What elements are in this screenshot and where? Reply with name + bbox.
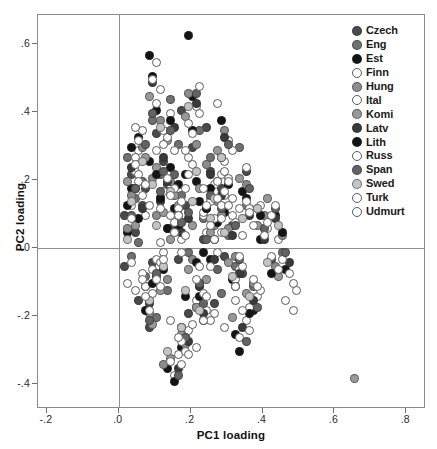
legend-marker-icon xyxy=(352,109,362,119)
data-point xyxy=(177,360,186,369)
data-point xyxy=(156,123,165,132)
data-point xyxy=(156,187,165,196)
data-point xyxy=(181,184,190,193)
data-point xyxy=(220,167,229,176)
data-point xyxy=(217,116,226,125)
data-point xyxy=(281,248,290,257)
legend-item-span[interactable]: Span xyxy=(352,163,436,177)
legend-label: Czech xyxy=(366,25,398,36)
legend-label: Span xyxy=(366,164,393,175)
legend-item-ital[interactable]: Ital xyxy=(352,93,436,107)
data-point xyxy=(210,299,219,308)
data-point xyxy=(170,146,179,155)
data-point xyxy=(145,316,154,325)
scatter-plot-figure: -.2.0.2.4.6.8 .6.4.2.0-.2-.4 PC1 loading… xyxy=(0,0,437,449)
y-tick-label: -.4 xyxy=(4,377,30,389)
legend-marker-icon xyxy=(352,179,362,189)
data-point xyxy=(188,129,197,138)
y-tick xyxy=(32,179,37,180)
data-point xyxy=(271,201,280,210)
legend: CzechEngEstFinnHungItalKomiLatvLithRussS… xyxy=(352,24,436,218)
legend-label: Komi xyxy=(366,109,393,120)
legend-item-est[interactable]: Est xyxy=(352,52,436,66)
data-point xyxy=(220,323,229,332)
data-point xyxy=(292,286,301,295)
data-point xyxy=(166,191,175,200)
y-tick xyxy=(32,111,37,112)
data-point xyxy=(213,194,222,203)
legend-label: Udmurt xyxy=(366,206,405,217)
data-point xyxy=(195,82,204,91)
data-point xyxy=(217,153,226,162)
data-point xyxy=(152,221,161,230)
data-point xyxy=(192,343,201,352)
legend-item-swed[interactable]: Swed xyxy=(352,177,436,191)
y-tick-label: .4 xyxy=(4,105,30,117)
data-point xyxy=(231,296,240,305)
data-point xyxy=(263,194,272,203)
data-point xyxy=(210,309,219,318)
y-axis-label: PC2 loading xyxy=(14,167,26,267)
data-point xyxy=(166,316,175,325)
x-tick-label: .6 xyxy=(329,413,338,425)
data-point xyxy=(123,279,132,288)
data-point xyxy=(184,350,193,359)
data-point xyxy=(228,272,237,281)
x-tick-label: .2 xyxy=(185,413,194,425)
legend-item-lith[interactable]: Lith xyxy=(352,135,436,149)
data-point xyxy=(235,174,244,183)
data-point xyxy=(224,201,233,210)
legend-item-udmurt[interactable]: Udmurt xyxy=(352,205,436,219)
data-point xyxy=(238,231,247,240)
x-tick-label: .0 xyxy=(113,413,122,425)
y-tick-label: -.2 xyxy=(4,309,30,321)
data-point xyxy=(242,337,251,346)
data-point xyxy=(231,282,240,291)
data-point xyxy=(163,174,172,183)
data-point xyxy=(145,306,154,315)
legend-item-turk[interactable]: Turk xyxy=(352,191,436,205)
legend-marker-icon xyxy=(352,165,362,175)
data-point xyxy=(213,99,222,108)
data-point xyxy=(224,177,233,186)
legend-marker-icon xyxy=(352,82,362,92)
legend-item-russ[interactable]: Russ xyxy=(352,149,436,163)
legend-label: Finn xyxy=(366,67,389,78)
legend-item-finn[interactable]: Finn xyxy=(352,66,436,80)
legend-item-czech[interactable]: Czech xyxy=(352,24,436,38)
data-point xyxy=(195,109,204,118)
legend-item-eng[interactable]: Eng xyxy=(352,38,436,52)
x-axis-label: PC1 loading xyxy=(37,429,425,441)
legend-marker-icon xyxy=(352,40,362,50)
x-tick-label: -.2 xyxy=(40,413,53,425)
data-point xyxy=(134,238,143,247)
legend-label: Swed xyxy=(366,178,394,189)
data-point xyxy=(184,31,193,40)
legend-item-komi[interactable]: Komi xyxy=(352,107,436,121)
data-point xyxy=(192,275,201,284)
legend-item-latv[interactable]: Latv xyxy=(352,121,436,135)
data-point xyxy=(217,289,226,298)
data-point xyxy=(206,221,215,230)
data-point xyxy=(170,228,179,237)
data-point xyxy=(152,58,161,67)
data-point xyxy=(123,235,132,244)
data-point xyxy=(289,306,298,315)
data-point xyxy=(181,231,190,240)
data-point xyxy=(350,374,359,383)
data-point xyxy=(253,303,262,312)
data-point xyxy=(156,282,165,291)
legend-item-hung[interactable]: Hung xyxy=(352,80,436,94)
reference-line-y0 xyxy=(38,248,424,249)
data-point xyxy=(159,140,168,149)
data-point xyxy=(199,316,208,325)
legend-marker-icon xyxy=(352,26,362,36)
data-point xyxy=(210,235,219,244)
data-point xyxy=(231,221,240,230)
data-point xyxy=(245,326,254,335)
legend-label: Lith xyxy=(366,137,386,148)
data-point xyxy=(245,184,254,193)
data-point xyxy=(245,208,254,217)
data-point xyxy=(174,333,183,342)
y-tick xyxy=(32,383,37,384)
